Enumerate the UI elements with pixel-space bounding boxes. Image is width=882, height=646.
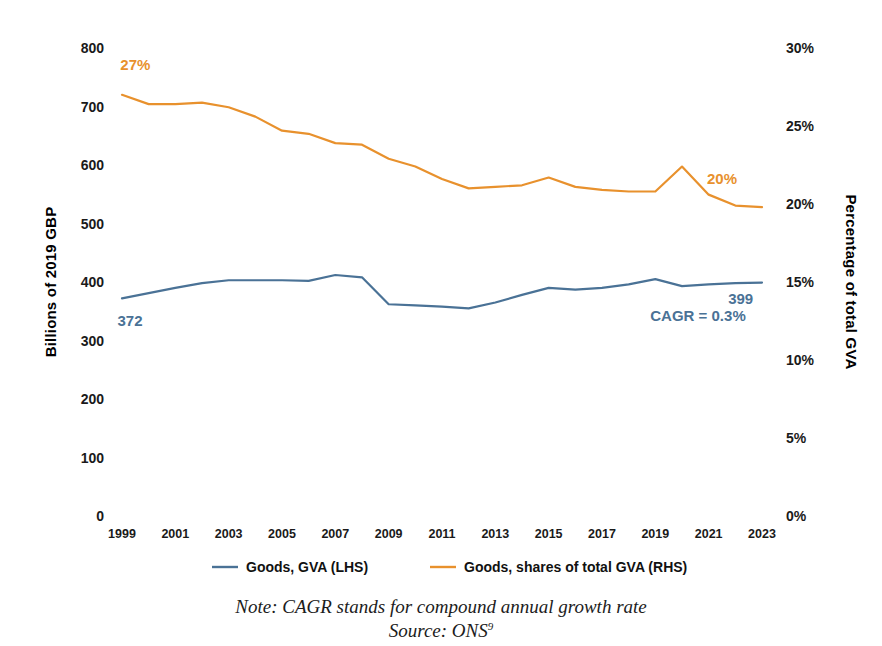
x-axis-tick-label: 2019 [641,527,669,541]
left-axis-tick-label: 400 [81,274,105,290]
right-axis: 0%5%10%15%20%25%30%Percentage of total G… [786,40,860,524]
right-axis-tick-label: 30% [786,40,815,56]
left-axis: 0100200300400500600700800Billions of 201… [42,40,104,524]
left-axis-title: Billions of 2019 GBP [42,207,59,358]
right-axis-tick-label: 0% [786,508,807,524]
annotation-label: 27% [120,56,150,73]
left-axis-tick-label: 300 [81,333,105,349]
legend-label: Goods, GVA (LHS) [246,559,368,575]
right-axis-tick-label: 10% [786,352,815,368]
right-axis-tick-label: 5% [786,430,807,446]
source-text: Source: ONS [389,620,488,641]
left-axis-tick-label: 100 [81,450,105,466]
x-axis: 1999200120032005200720092011201320152017… [108,527,776,541]
annotation-label: CAGR = 0.3% [650,307,745,324]
chart-legend: Goods, GVA (LHS)Goods, shares of total G… [212,559,687,575]
x-axis-tick-label: 2015 [535,527,563,541]
right-axis-tick-label: 15% [786,274,815,290]
x-axis-tick-label: 2001 [161,527,189,541]
x-axis-tick-label: 2013 [481,527,509,541]
note-footnote: Note: CAGR stands for compound annual gr… [0,596,882,618]
annotation-label: 372 [117,312,142,329]
left-axis-tick-label: 500 [81,216,105,232]
x-axis-tick-label: 2005 [268,527,296,541]
x-axis-tick-label: 1999 [108,527,136,541]
left-axis-tick-label: 800 [81,40,105,56]
x-axis-tick-label: 2003 [215,527,243,541]
left-axis-tick-label: 700 [81,99,105,115]
annotation-label: 399 [728,290,753,307]
series-line-gva [122,275,762,308]
note-text: Note: CAGR stands for compound annual gr… [235,596,647,617]
right-axis-tick-label: 25% [786,118,815,134]
chart-figure: 0100200300400500600700800Billions of 201… [0,0,882,646]
x-axis-tick-label: 2023 [748,527,776,541]
left-axis-tick-label: 0 [96,508,104,524]
x-axis-tick-label: 2017 [588,527,616,541]
chart-annotations: 27%20%372399CAGR = 0.3% [117,56,753,329]
series-line-shares [122,95,762,207]
x-axis-tick-label: 2021 [695,527,723,541]
source-marker: 9 [488,620,494,632]
legend-label: Goods, shares of total GVA (RHS) [464,559,687,575]
series-lines [122,95,762,309]
x-axis-tick-label: 2007 [321,527,349,541]
left-axis-tick-label: 600 [81,157,105,173]
left-axis-tick-label: 200 [81,391,105,407]
x-axis-tick-label: 2009 [375,527,403,541]
annotation-label: 20% [707,170,737,187]
source-footnote: Source: ONS9 [0,620,882,642]
x-axis-tick-label: 2011 [428,527,455,541]
right-axis-tick-label: 20% [786,196,815,212]
right-axis-title: Percentage of total GVA [843,194,860,369]
